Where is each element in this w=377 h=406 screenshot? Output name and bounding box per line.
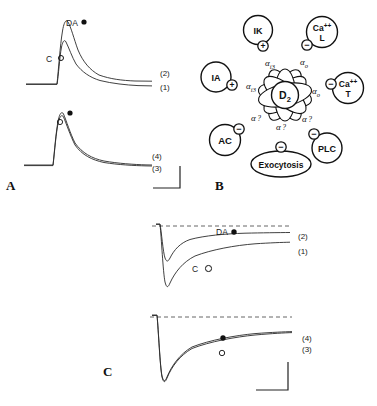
panel-a-label-c-marker bbox=[58, 55, 64, 61]
panel-a-label-c: C bbox=[46, 54, 52, 64]
panel-b-node-ac-label: AC bbox=[218, 135, 232, 146]
panel-c-lower-number-4: (4) bbox=[302, 334, 312, 343]
panel-c-marker-filled bbox=[220, 335, 225, 340]
panel-b-petal-label-plc: α? bbox=[302, 114, 312, 124]
panel-a-upper-number-1: (1) bbox=[160, 83, 170, 92]
alpha-exo-sub: ? bbox=[282, 123, 286, 132]
alpha-cat-sub: o bbox=[317, 91, 321, 98]
panel-b-node-ik-label: IK bbox=[254, 26, 264, 36]
panel-c-group bbox=[150, 224, 292, 390]
ca-l-main: Ca bbox=[313, 23, 324, 33]
ca-t-sup: ++ bbox=[350, 78, 358, 85]
panel-c-marker-open bbox=[219, 350, 224, 355]
panel-c-trace-3 bbox=[152, 316, 292, 382]
panel-a-upper-traces bbox=[26, 21, 152, 86]
panel-a-marker-filled bbox=[67, 110, 72, 115]
figure-canvas: D2 IK + Ca++ L − Ca++ T − bbox=[0, 0, 377, 406]
panel-b-petal-label-ik: αi3 bbox=[265, 58, 276, 70]
panel-b-petal-label-ac: α? bbox=[251, 113, 261, 123]
panel-letter-a: A bbox=[6, 178, 16, 194]
panel-c-trace-4 bbox=[152, 315, 292, 381]
center-sub: 2 bbox=[287, 95, 291, 104]
panel-a-lower-number-3: (3) bbox=[152, 164, 162, 173]
panel-b-petal-label-cat: αo bbox=[312, 86, 321, 98]
panel-a-lower-number-4: (4) bbox=[152, 152, 162, 161]
panel-a-trace-c bbox=[26, 41, 152, 86]
panel-b-petal-label-cal: αo bbox=[300, 57, 309, 69]
panel-b-petal-label-exo: α? bbox=[276, 122, 286, 132]
panel-c-label-c: C bbox=[192, 264, 198, 274]
panel-a-upper-number-2: (2) bbox=[160, 69, 170, 78]
panel-b-node-ia-label: IA bbox=[212, 73, 222, 83]
panel-b-sign-exocytosis-label: − bbox=[278, 142, 283, 152]
alpha-plc: α bbox=[302, 114, 307, 124]
panel-a-upper-marker-filled bbox=[81, 19, 86, 24]
alpha-plc-sub: ? bbox=[308, 115, 312, 124]
panel-b-sign-ca-t-label: − bbox=[328, 79, 333, 89]
panel-c-scale-bar bbox=[256, 362, 288, 390]
alpha-ac-sub: ? bbox=[257, 114, 261, 123]
panel-b-node-ca-l-sub: L bbox=[319, 33, 324, 43]
panel-c-label-da: DA bbox=[216, 227, 228, 237]
alpha-cal-sub: o bbox=[305, 62, 309, 69]
alpha-ik-sub: i3 bbox=[270, 63, 276, 70]
panel-c-label-c-marker bbox=[205, 265, 212, 272]
panel-b-sign-ac-label: − bbox=[236, 124, 241, 134]
panel-c-upper-number-1: (1) bbox=[298, 247, 308, 256]
panel-c-lower-number-3: (3) bbox=[302, 345, 312, 354]
alpha-ac: α bbox=[251, 113, 256, 123]
ca-l-sup: ++ bbox=[324, 22, 332, 29]
panel-c-upper-number-2: (2) bbox=[298, 232, 308, 241]
panel-c-upper-marker-filled bbox=[231, 229, 236, 234]
alpha-exo: α bbox=[276, 122, 281, 132]
panel-b-sign-plc-label: − bbox=[311, 129, 316, 139]
panel-b-node-exocytosis-label: Exocytosis bbox=[259, 160, 304, 170]
panel-a-label-da: DA bbox=[66, 18, 78, 28]
panel-b-sign-ia-label: + bbox=[230, 80, 235, 90]
panel-letter-c: C bbox=[103, 364, 113, 380]
panel-a-lower-traces bbox=[24, 110, 152, 166]
panel-b-node-ca-t-sub: T bbox=[345, 89, 351, 99]
panel-c-lower-traces bbox=[150, 315, 292, 382]
panel-a-trace-da bbox=[26, 21, 152, 84]
ca-t-main: Ca bbox=[339, 79, 350, 89]
panel-b-sign-ik-label: + bbox=[261, 41, 266, 51]
figure-root: D2 IK + Ca++ L − Ca++ T − bbox=[0, 0, 377, 406]
panel-b-group: D2 IK + Ca++ L − Ca++ T − bbox=[201, 16, 364, 178]
panel-b-node-plc-label: PLC bbox=[318, 144, 337, 154]
panel-b-sign-ca-l-label: − bbox=[304, 40, 309, 50]
panel-a-group bbox=[24, 19, 180, 188]
panel-b-petal-label-ia: αi3 bbox=[246, 81, 257, 93]
panel-a-trace-3 bbox=[24, 116, 152, 166]
panel-letter-b: B bbox=[215, 178, 224, 194]
alpha-ia-sub: i3 bbox=[251, 86, 257, 93]
